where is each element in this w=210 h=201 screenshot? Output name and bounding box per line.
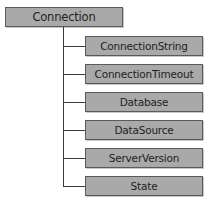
- branch-line-state: [63, 186, 85, 187]
- branch-line-database: [63, 102, 85, 103]
- child-node-connectionstring: ConnectionString: [85, 36, 203, 56]
- branch-line-connectionstring: [63, 46, 85, 47]
- tree-trunk-line: [63, 27, 64, 187]
- branch-line-connectiontimeout: [63, 74, 85, 75]
- child-node-connectiontimeout: ConnectionTimeout: [85, 64, 203, 84]
- root-node-connection: Connection: [5, 7, 123, 27]
- branch-line-datasource: [63, 130, 85, 131]
- child-node-serverversion: ServerVersion: [85, 148, 203, 168]
- child-node-database: Database: [85, 92, 203, 112]
- child-node-datasource: DataSource: [85, 120, 203, 140]
- child-node-state: State: [85, 176, 203, 196]
- branch-line-serverversion: [63, 158, 85, 159]
